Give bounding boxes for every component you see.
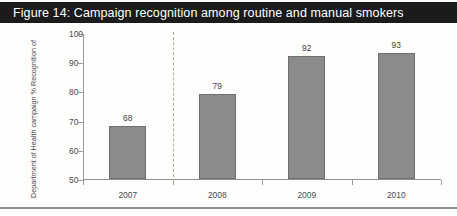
y-axis-title: % Recognition of Department of Health ca…	[18, 39, 48, 199]
bar-2009	[288, 56, 325, 179]
bar-2010	[378, 53, 415, 179]
y-axis-title-line-2: Department of Health campaign	[29, 96, 38, 197]
y-axis-tick-label: 100	[69, 29, 72, 39]
y-axis-line	[83, 34, 84, 180]
x-axis-tick	[262, 180, 263, 185]
y-axis-tick-label: 80	[69, 87, 72, 97]
bar-value-label-2010: 93	[392, 40, 401, 50]
y-axis-tick	[78, 122, 83, 123]
x-axis-label-2007: 2007	[118, 190, 137, 200]
y-axis-title-line-1: % Recognition of	[29, 40, 38, 94]
y-axis-tick	[78, 63, 83, 64]
x-axis-tick	[352, 180, 353, 185]
y-axis-tick-label: 70	[69, 117, 72, 127]
x-axis-tick	[441, 180, 442, 185]
y-axis-tick-label: 50	[69, 175, 72, 185]
y-axis-tick	[78, 92, 83, 93]
bar-2007	[109, 126, 146, 179]
figure-title-bar: Figure 14: Campaign recognition among ro…	[0, 2, 457, 23]
x-axis-tick	[83, 180, 84, 185]
x-axis-label-2009: 2009	[297, 190, 316, 200]
y-axis-tick-label: 90	[69, 58, 72, 68]
bar-value-label-2008: 79	[213, 81, 222, 91]
x-axis-label-2008: 2008	[208, 190, 227, 200]
y-axis-tick-label: 60	[69, 146, 72, 156]
plot-area: 5060708090100 68799293 2007200820092010	[83, 34, 441, 180]
y-axis-tick	[78, 151, 83, 152]
bar-value-label-2009: 92	[302, 43, 311, 53]
dashed-divider-line	[173, 32, 174, 182]
bar-2008	[199, 94, 236, 179]
figure-screenshot: Figure 14: Campaign recognition among ro…	[0, 0, 457, 216]
bar-value-label-2007: 68	[123, 113, 132, 123]
x-axis-label-2010: 2010	[387, 190, 406, 200]
page-title: Figure 14: Campaign recognition among ro…	[0, 6, 404, 20]
bottom-rule	[0, 207, 457, 209]
